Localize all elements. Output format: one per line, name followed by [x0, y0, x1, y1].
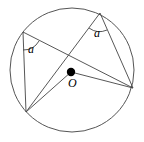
- chord-topleft-right: [23, 32, 133, 88]
- circle-geometry-diagram: [0, 0, 144, 142]
- center-point-label: O: [68, 77, 77, 89]
- radius-to-right: [71, 72, 133, 88]
- geometry-figure: a a O: [0, 0, 144, 142]
- chord-topleft-bottomleft: [23, 32, 26, 112]
- angle-label-a-right: a: [94, 27, 100, 39]
- chord-topright-bottomleft: [26, 13, 100, 112]
- angle-label-a-left: a: [28, 43, 34, 55]
- chord-topright-right: [100, 13, 133, 88]
- center-point-dot: [67, 68, 75, 76]
- radius-to-bottomleft: [26, 72, 71, 112]
